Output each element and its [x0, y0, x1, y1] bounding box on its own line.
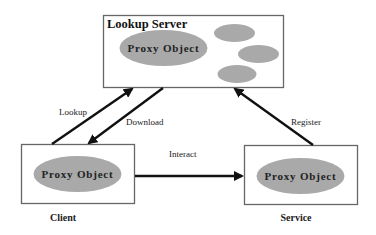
service-caption: Service	[280, 212, 312, 223]
client-caption: Client	[50, 212, 77, 223]
service-node: Proxy Object Service	[245, 146, 358, 224]
diagram-canvas: Lookup Server Proxy Object Proxy Object …	[0, 0, 376, 235]
interact-edge-label: Interact	[169, 149, 197, 159]
lookup-edge: Lookup	[52, 89, 132, 144]
registered-object-ellipse-3	[218, 65, 257, 83]
register-edge-label: Register	[291, 117, 321, 127]
lookup-server-node: Lookup Server Proxy Object	[104, 16, 284, 88]
download-arrow	[89, 88, 163, 143]
interact-edge: Interact	[135, 149, 242, 176]
client-node: Proxy Object Client	[22, 145, 135, 224]
register-edge: Register	[235, 89, 321, 145]
client-proxy-object-label: Proxy Object	[41, 168, 113, 180]
lookup-server-label: Lookup Server	[107, 17, 188, 31]
registered-object-ellipse-2	[238, 45, 279, 63]
service-proxy-object-label: Proxy Object	[264, 170, 336, 182]
download-edge-label: Download	[126, 117, 164, 127]
download-edge: Download	[89, 88, 164, 143]
registered-object-ellipse-1	[214, 24, 255, 42]
lookup-proxy-object-label: Proxy Object	[127, 42, 199, 54]
lookup-edge-label: Lookup	[59, 107, 87, 117]
